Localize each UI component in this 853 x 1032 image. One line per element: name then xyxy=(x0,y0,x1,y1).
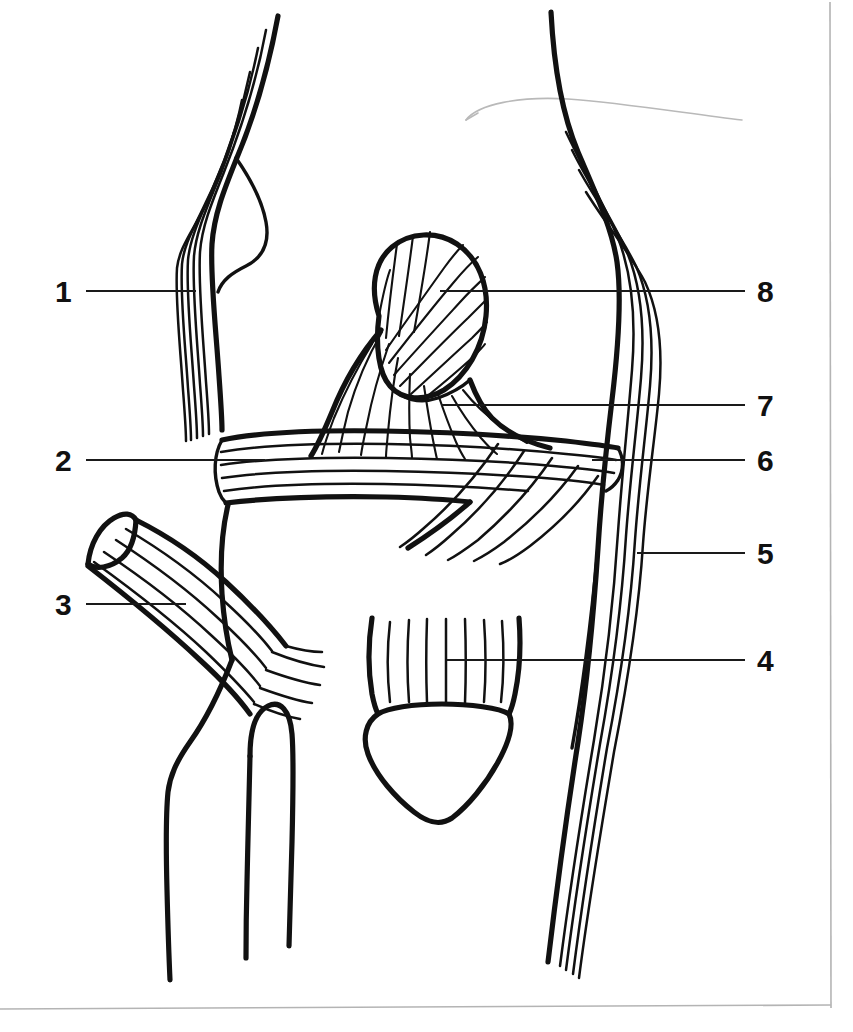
ligament-fiber-7 xyxy=(501,621,503,702)
label-number-7: 7 xyxy=(757,391,774,421)
medial-fiber-5 xyxy=(177,132,234,441)
fan-fiber-6 xyxy=(438,394,465,459)
stump-top-edge xyxy=(136,520,286,646)
frame-right-line xyxy=(830,2,831,1008)
frame-bottom-line xyxy=(0,1005,831,1009)
label-number-8: 8 xyxy=(757,277,774,307)
label-number-4: 4 xyxy=(757,646,774,676)
fan-fiber-2 xyxy=(361,344,389,455)
tibia-outer-contour xyxy=(166,660,232,980)
patella-fiber-9 xyxy=(414,232,430,332)
band-fiber-3 xyxy=(222,471,604,485)
band-left-cap xyxy=(215,440,226,503)
ligament-fiber-1 xyxy=(388,622,390,702)
medial-thigh-structure xyxy=(177,16,278,441)
medial-outer-contour xyxy=(212,16,278,430)
stump-tail-2 xyxy=(272,652,324,667)
ligament-fiber-6 xyxy=(484,620,486,702)
stump-tail-1 xyxy=(286,646,322,652)
fan-fiber-3 xyxy=(386,358,398,457)
ligament-left-edge xyxy=(369,618,378,714)
band-fiber-4 xyxy=(224,484,528,491)
patella-structure xyxy=(374,232,487,401)
label-number-1: 1 xyxy=(55,277,72,307)
stump-tail-3 xyxy=(266,670,320,685)
label-number-6: 6 xyxy=(757,446,774,476)
label-number-2: 2 xyxy=(55,446,72,476)
page-frame xyxy=(0,2,831,1009)
tibial-spine xyxy=(250,704,293,946)
tibial-spine-left-edge xyxy=(246,756,250,958)
lateral-leg-structure xyxy=(548,12,660,978)
patella-fiber-7 xyxy=(386,244,397,338)
lateral-inner-edge xyxy=(572,548,598,748)
band-bottom-edge xyxy=(226,497,470,503)
knee-diagram-svg xyxy=(0,0,853,1032)
joint-ligament-band xyxy=(215,431,622,503)
muscle-stump-structure xyxy=(88,514,324,719)
medial-condyle-bulge xyxy=(218,158,267,292)
figure-canvas: 1 2 3 4 5 6 7 8 xyxy=(0,0,853,1032)
medial-fiber-1 xyxy=(200,30,266,434)
lateral-outer-contour xyxy=(548,12,619,962)
ligament-fiber-3 xyxy=(426,619,427,702)
label-number-3: 3 xyxy=(55,590,72,620)
stump-fiber-3 xyxy=(104,552,260,686)
tibia-structure xyxy=(166,660,293,980)
oblique-fiber-2 xyxy=(426,451,524,555)
label-number-5: 5 xyxy=(757,539,774,569)
ligament-fiber-2 xyxy=(408,620,410,702)
patellar-ligament-structure xyxy=(365,618,520,823)
pencil-smudge xyxy=(466,98,742,120)
ligament-right-edge xyxy=(509,618,520,714)
tibial-tuberosity xyxy=(365,704,511,823)
ligament-fiber-5 xyxy=(465,619,466,703)
stump-fiber-1 xyxy=(126,529,272,651)
stump-tail-4 xyxy=(260,688,312,703)
